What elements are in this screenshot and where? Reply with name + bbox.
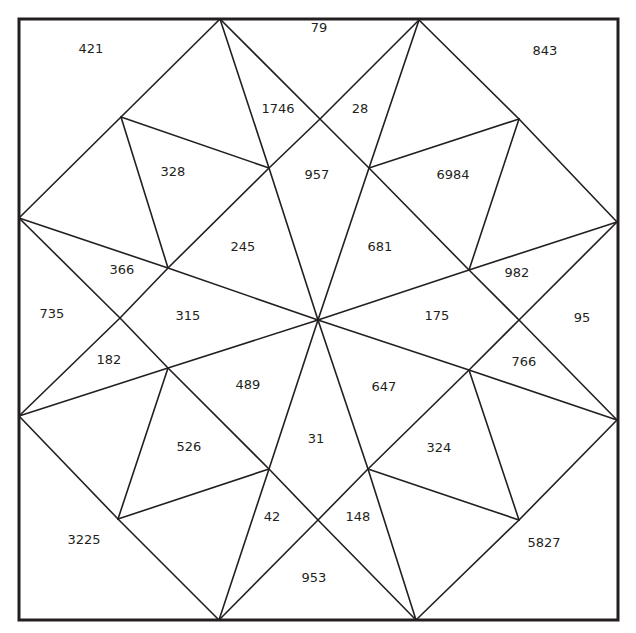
diagram-edges: [19, 19, 617, 620]
edge-f-C: [269, 320, 318, 469]
region-label: 957: [305, 167, 330, 182]
region-label: 182: [97, 352, 122, 367]
edge-L2-e: [19, 368, 168, 416]
region-label: 148: [346, 509, 371, 524]
edge-d-L1: [19, 218, 120, 318]
region-label: 843: [533, 43, 558, 58]
edge-a-L1: [19, 117, 121, 218]
region-label: 95: [574, 310, 591, 325]
edge-j-k: [469, 119, 519, 270]
edge-i-k: [369, 168, 469, 270]
edge-T2-j: [419, 20, 519, 119]
edge-B2-p: [318, 520, 416, 620]
edge-m-o: [469, 370, 519, 520]
edge-o-B2: [416, 520, 519, 620]
edge-a-b: [121, 117, 269, 168]
edge-h-T2: [320, 20, 419, 119]
region-label: 982: [505, 265, 530, 280]
region-label: 3225: [67, 532, 100, 547]
region-label: 526: [177, 439, 202, 454]
region-label: 245: [231, 239, 256, 254]
region-label: 6984: [436, 167, 469, 182]
region-label: 681: [368, 239, 393, 254]
region-label: 31: [308, 431, 325, 446]
region-label: 315: [176, 308, 201, 323]
edge-g-L2: [19, 416, 118, 519]
edge-R1-k: [469, 222, 617, 270]
region-label: 421: [79, 41, 104, 56]
edge-b-C: [269, 168, 318, 320]
edge-L1-c: [19, 218, 168, 268]
edge-m-C: [318, 320, 469, 370]
region-label: 1746: [261, 101, 294, 116]
edge-T1-b: [220, 19, 269, 168]
edge-f-g: [118, 469, 269, 519]
edge-e-d: [120, 318, 168, 368]
region-label: 766: [512, 354, 537, 369]
edge-h-i: [320, 119, 369, 168]
edge-T1-a: [121, 19, 220, 117]
region-label: 328: [161, 164, 186, 179]
edge-B1-f: [219, 469, 269, 620]
edge-T2-i: [369, 20, 419, 168]
region-label: 175: [425, 308, 450, 323]
region-label: 647: [372, 379, 397, 394]
region-label: 366: [110, 262, 135, 277]
region-label: 5827: [527, 535, 560, 550]
edge-B2-n: [368, 469, 416, 620]
region-label: 28: [352, 101, 369, 116]
region-label: 953: [302, 570, 327, 585]
region-label: 79: [311, 20, 328, 35]
edge-g-e: [118, 368, 168, 519]
edge-i-C: [318, 168, 369, 320]
edge-i-j: [369, 119, 519, 168]
region-label: 42: [264, 509, 281, 524]
edge-L2-d: [19, 318, 120, 416]
region-label: 324: [427, 440, 452, 455]
edge-l-R2: [519, 320, 617, 420]
edge-h-b: [269, 119, 320, 168]
edge-n-C: [318, 320, 368, 469]
triangle-puzzle-diagram: 4217984317462832895769842456813669827353…: [0, 0, 636, 633]
region-labels: 4217984317462832895769842456813669827353…: [40, 20, 591, 585]
region-label: 489: [236, 377, 261, 392]
edge-j-R1: [519, 119, 617, 222]
edge-o-n: [368, 469, 519, 520]
edge-B1-g: [118, 519, 219, 620]
edge-R2-m: [469, 370, 617, 420]
edge-R1-l: [519, 222, 617, 320]
edge-e-C: [168, 320, 318, 368]
edge-a-c: [121, 117, 168, 268]
edge-R2-o: [519, 420, 617, 520]
region-label: 735: [40, 306, 65, 321]
